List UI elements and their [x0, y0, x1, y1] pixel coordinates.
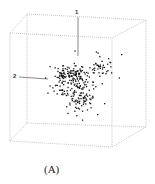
figure-caption: (A) — [44, 163, 59, 175]
scatter-3d-plot — [0, 0, 155, 184]
axis-label-2: 2 — [13, 73, 16, 79]
axis-lines — [19, 17, 78, 79]
data-points — [45, 50, 122, 120]
axis-label-1: 1 — [75, 9, 78, 15]
